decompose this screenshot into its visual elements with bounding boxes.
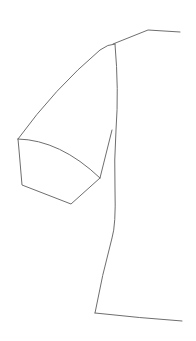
garment-sketch: [0, 0, 196, 341]
sleeve-underarm-line: [18, 139, 100, 178]
sleeve-cap-line: [18, 44, 115, 139]
neckline-shoulder-line: [113, 30, 180, 44]
body-side-seam-line: [95, 44, 117, 313]
hem-line: [95, 313, 182, 321]
armhole-front-line: [100, 130, 112, 178]
